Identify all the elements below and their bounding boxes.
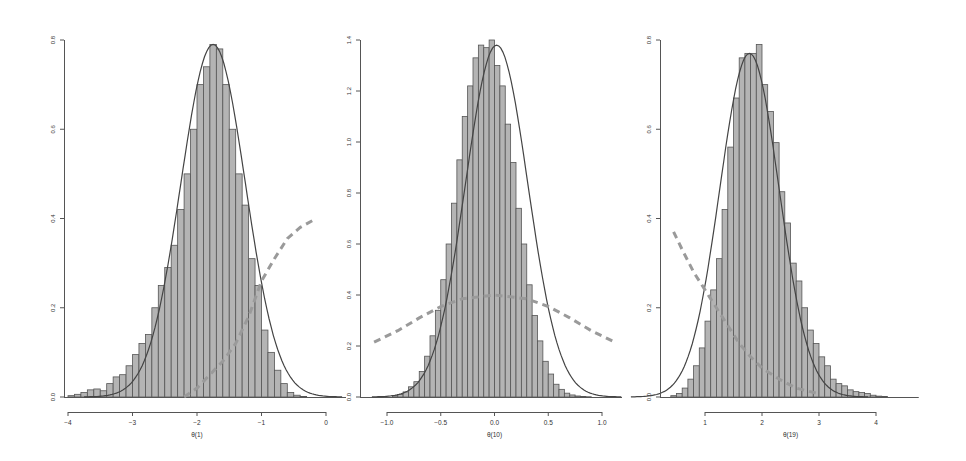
histogram-bar xyxy=(802,308,808,397)
histogram-bar xyxy=(441,280,446,397)
histogram-bar xyxy=(762,85,768,397)
histogram-bar xyxy=(876,396,882,397)
y-tick-label: 0.4 xyxy=(646,214,652,223)
histogram-bar xyxy=(255,285,261,397)
histogram-bar xyxy=(74,394,80,397)
y-tick-label: 0.4 xyxy=(50,214,56,223)
histogram-bar xyxy=(484,48,489,397)
x-tick-label: 2 xyxy=(760,419,764,426)
y-tick-label: 0.8 xyxy=(346,188,352,197)
y-tick-label: 0.4 xyxy=(346,290,352,299)
y-tick-label: 0.2 xyxy=(646,303,652,312)
histogram-bar xyxy=(694,366,700,397)
y-tick-label: 0.6 xyxy=(646,124,652,133)
histogram-bar xyxy=(548,374,553,397)
histogram-bar xyxy=(538,341,543,397)
histogram-bar xyxy=(268,352,274,397)
histogram-bar xyxy=(559,389,564,397)
histogram-bar xyxy=(682,388,688,397)
x-tick-label: 1.0 xyxy=(597,419,606,426)
histogram-bar xyxy=(511,162,516,397)
y-tick-label: 0.0 xyxy=(50,392,56,401)
histogram-bar xyxy=(446,244,451,397)
x-tick-label: −3 xyxy=(129,419,137,426)
y-tick-label: 1.4 xyxy=(346,35,352,44)
histogram-bar xyxy=(825,366,831,397)
histogram-bar xyxy=(210,44,216,397)
histogram-bar xyxy=(133,355,139,397)
histogram-bar xyxy=(435,310,440,397)
histogram-bar xyxy=(165,268,171,397)
histogram-bar xyxy=(229,129,235,397)
histogram-bar xyxy=(521,244,526,397)
x-axis-label: θ(10) xyxy=(487,431,502,439)
histogram-bar xyxy=(203,67,209,397)
histogram-bar xyxy=(722,210,728,397)
histogram-bar xyxy=(532,315,537,397)
histogram-bar xyxy=(262,330,268,397)
histogram-bar xyxy=(158,285,164,397)
histogram-bars xyxy=(671,44,888,397)
histogram-bar xyxy=(836,384,842,397)
panel-theta-19: 0.00.20.40.60.81234θ(19) xyxy=(631,35,919,439)
histogram-bar xyxy=(489,40,494,397)
histogram-bar xyxy=(249,259,255,397)
x-tick-label: 0.5 xyxy=(544,419,553,426)
histogram-bar xyxy=(870,395,876,397)
histogram-bars xyxy=(392,40,591,397)
histogram-bar xyxy=(575,396,580,397)
x-tick-label: −4 xyxy=(64,419,72,426)
histogram-bar xyxy=(152,308,158,397)
histogram-bar xyxy=(543,361,548,397)
histogram-bar xyxy=(516,208,521,397)
histogram-bar xyxy=(677,393,683,397)
histogram-bars xyxy=(68,44,307,397)
histogram-bar xyxy=(505,124,510,397)
histogram-bar xyxy=(452,203,457,397)
histogram-bar xyxy=(274,370,280,397)
x-tick-label: −0.5 xyxy=(434,419,447,426)
histogram-bar xyxy=(716,259,722,397)
x-tick-label: 3 xyxy=(817,419,821,426)
histogram-bar xyxy=(500,86,505,397)
histogram-bar xyxy=(68,396,74,397)
histogram-bar xyxy=(287,393,293,397)
x-tick-label: 0.0 xyxy=(490,419,499,426)
histogram-bar xyxy=(430,336,435,397)
histogram-bar xyxy=(734,98,740,397)
y-tick-label: 0.0 xyxy=(346,392,352,401)
y-tick-label: 0.8 xyxy=(646,35,652,44)
y-tick-label: 0.2 xyxy=(346,341,352,350)
y-tick-label: 0.6 xyxy=(346,239,352,248)
x-axis-label: θ(1) xyxy=(191,431,203,439)
x-tick-label: −2 xyxy=(193,419,201,426)
y-tick-label: 0.8 xyxy=(50,35,56,44)
histogram-bar xyxy=(281,384,287,397)
x-tick-label: −1.0 xyxy=(381,419,394,426)
histogram-bar xyxy=(768,111,774,397)
y-tick-label: 1.2 xyxy=(346,86,352,95)
panel-theta-1: 0.00.20.40.60.8−4−3−2−10θ(1) xyxy=(50,35,346,439)
histogram-bar xyxy=(462,117,467,398)
y-tick-label: 0.0 xyxy=(646,392,652,401)
x-tick-label: −1 xyxy=(258,419,266,426)
histogram-bar xyxy=(216,49,222,397)
histogram-bar xyxy=(236,174,242,397)
histogram-bar xyxy=(554,384,559,397)
histogram-bar xyxy=(191,129,197,397)
histogram-bar xyxy=(126,366,132,397)
histogram-bar xyxy=(728,147,734,397)
histogram-bar xyxy=(197,85,203,397)
histogram-bar xyxy=(756,44,762,397)
histogram-bar xyxy=(751,53,757,397)
y-tick-label: 0.2 xyxy=(50,303,56,312)
histogram-bar xyxy=(294,395,300,397)
y-tick-label: 1.0 xyxy=(346,137,352,146)
histogram-bar xyxy=(699,348,705,397)
histogram-bar xyxy=(419,372,424,398)
histogram-bar xyxy=(457,160,462,397)
x-axis-label: θ(19) xyxy=(783,431,798,439)
histogram-bar xyxy=(830,379,836,397)
histogram-bar xyxy=(671,396,677,397)
histogram-bar xyxy=(495,66,500,398)
